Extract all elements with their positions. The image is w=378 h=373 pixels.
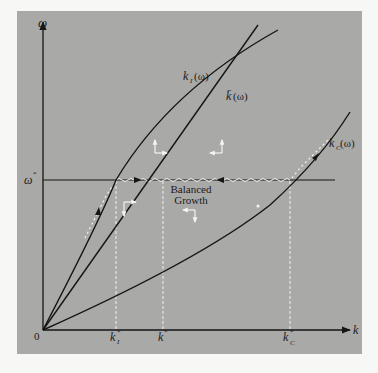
kC-curve	[43, 112, 350, 330]
svg-text:k: k	[283, 330, 289, 344]
svg-text:k: k	[110, 330, 116, 344]
figure-page: ω k 0 ω * k * I k * k * C k I (ω) k	[0, 0, 378, 373]
svg-text:C: C	[290, 339, 295, 347]
svg-text:(ω): (ω)	[233, 90, 248, 103]
label-k-bar-curve: k̄ (ω)	[226, 89, 248, 103]
svg-text:k̄: k̄	[226, 89, 232, 103]
tick-kC-star: k * C	[283, 328, 295, 347]
x-axis-label: k	[353, 323, 359, 337]
svg-text:*: *	[164, 328, 168, 336]
svg-text:ω: ω	[24, 173, 32, 187]
arrow-upper-left	[155, 140, 167, 153]
k-bar-line	[43, 25, 258, 330]
balanced-arrow-left	[216, 177, 224, 183]
y-axis-label: ω	[38, 15, 47, 30]
balanced-growth-line2: Growth	[174, 194, 208, 206]
svg-text:I: I	[116, 338, 120, 346]
svg-text:(ω): (ω)	[194, 70, 209, 83]
svg-text:*: *	[117, 328, 121, 336]
svg-text:*: *	[33, 170, 37, 178]
label-kI-curve: k I (ω)	[183, 69, 209, 85]
origin-label: 0	[34, 330, 40, 342]
label-kC-curve: k C (ω)	[329, 136, 355, 152]
phase-diagram: ω k 0 ω * k * I k * k * C k I (ω) k	[0, 0, 378, 373]
svg-text:k: k	[329, 136, 335, 150]
kI-trace-arrow	[95, 207, 101, 215]
arrow-upper-right	[210, 140, 222, 153]
svg-text:*: *	[290, 328, 294, 336]
omega-star-label: ω *	[24, 170, 37, 187]
svg-text:I: I	[189, 77, 193, 85]
svg-text:k: k	[183, 69, 189, 83]
kC-marker	[256, 204, 259, 207]
tick-k-star: k *	[158, 328, 168, 344]
axes	[43, 22, 350, 330]
arrow-lower-left	[124, 202, 136, 216]
tick-kI-star: k * I	[110, 328, 121, 346]
kC-trace	[292, 138, 330, 178]
balanced-arrow-right	[134, 177, 142, 183]
svg-text:(ω): (ω)	[340, 137, 355, 150]
arrow-lower-right	[183, 210, 195, 222]
